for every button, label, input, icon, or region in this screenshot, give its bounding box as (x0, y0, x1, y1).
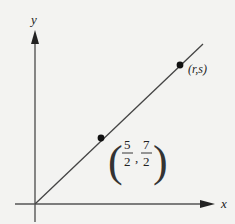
x-axis-label: x (220, 196, 227, 211)
midpoint-label-close-paren: ) (153, 137, 168, 186)
y-axis-label: y (29, 12, 37, 27)
midpoint-y-denominator: 2 (143, 154, 150, 169)
midpoint-dot (98, 135, 105, 142)
y-axis-arrow-icon (31, 30, 39, 44)
diagram-canvas: y x ( 5 2 , 7 2 ) (r,s) (0, 0, 235, 224)
midpoint-x-numerator: 5 (124, 137, 131, 152)
endpoint-dot (177, 62, 184, 69)
endpoint-label: (r,s) (188, 62, 207, 76)
x-axis-arrow-icon (200, 200, 215, 208)
midpoint-separator: , (135, 150, 138, 165)
midpoint-y-numerator: 7 (143, 137, 150, 152)
midpoint-label-open-paren: ( (108, 137, 123, 186)
midpoint-x-denominator: 2 (124, 154, 131, 169)
coordinate-plane: y x ( 5 2 , 7 2 ) (r,s) (0, 0, 235, 224)
